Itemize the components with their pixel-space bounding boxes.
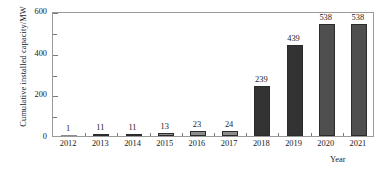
bar-chart-figure: Cumulative installed capacity/MW 0200400… — [0, 0, 387, 177]
y-axis-minor-tick — [53, 76, 57, 77]
bar-value-label: 24 — [214, 121, 244, 129]
x-axis-tick — [182, 133, 183, 137]
x-axis-tick — [343, 133, 344, 137]
bar-value-label: 538 — [343, 14, 373, 22]
plot-area — [52, 12, 374, 137]
y-axis-major-tick — [53, 96, 58, 97]
bar-value-label: 11 — [85, 124, 115, 132]
bar — [287, 45, 303, 136]
x-axis-category-label: 2014 — [117, 140, 149, 148]
x-axis-category-label: 2021 — [342, 140, 374, 148]
bar-value-label: 439 — [279, 35, 309, 43]
y-axis-major-tick — [53, 55, 58, 56]
bar-value-label: 1 — [53, 125, 83, 133]
x-axis-category-label: 2017 — [213, 140, 245, 148]
bar — [254, 86, 270, 136]
x-axis-tick — [214, 133, 215, 137]
x-axis-category-label: 2019 — [278, 140, 310, 148]
x-axis-title: Year — [330, 155, 345, 164]
x-axis-category-label: 2018 — [245, 140, 277, 148]
bar — [351, 24, 367, 136]
y-axis-title: Cumulative installed capacity/MW — [19, 0, 28, 142]
bar — [126, 134, 142, 136]
y-axis-minor-tick — [53, 117, 57, 118]
x-axis-tick — [117, 133, 118, 137]
x-axis-tick — [278, 133, 279, 137]
y-axis-tick-label: 200 — [17, 91, 47, 99]
x-axis-tick — [85, 133, 86, 137]
bar — [61, 135, 77, 136]
y-axis-tick-label: 600 — [17, 8, 47, 16]
x-axis-category-label: 2012 — [52, 140, 84, 148]
bar — [93, 134, 109, 136]
x-axis-category-label: 2020 — [310, 140, 342, 148]
bar-value-label: 239 — [246, 76, 276, 84]
bar-value-label: 538 — [311, 14, 341, 22]
y-axis-minor-tick — [53, 34, 57, 35]
y-axis-tick-label: 0 — [17, 133, 47, 141]
y-axis-tick-label: 400 — [17, 50, 47, 58]
bar — [190, 131, 206, 136]
x-axis-tick — [150, 133, 151, 137]
bar — [319, 24, 335, 136]
bar — [222, 131, 238, 136]
x-axis-category-label: 2016 — [181, 140, 213, 148]
y-axis-major-tick — [53, 13, 58, 14]
bar — [158, 133, 174, 136]
x-axis-category-label: 2013 — [84, 140, 116, 148]
x-axis-tick — [246, 133, 247, 137]
bar-value-label: 23 — [182, 121, 212, 129]
bar-value-label: 11 — [118, 124, 148, 132]
x-axis-tick — [311, 133, 312, 137]
x-axis-category-label: 2015 — [149, 140, 181, 148]
bar-value-label: 13 — [150, 123, 180, 131]
